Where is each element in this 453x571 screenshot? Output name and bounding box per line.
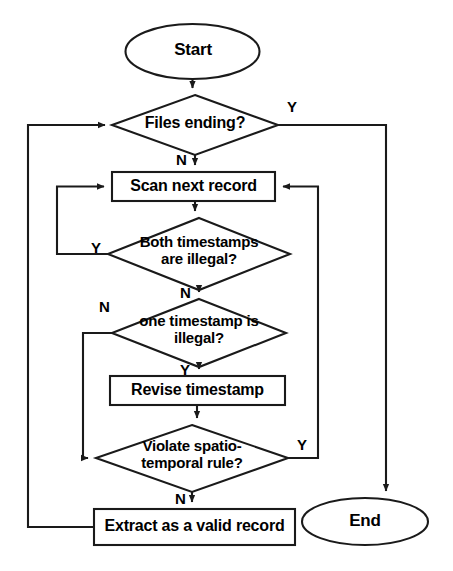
scan-next-record-node-shape xyxy=(112,172,275,201)
edge-label-files-ending-no: N xyxy=(176,152,187,167)
flowchart-svg xyxy=(0,0,453,571)
extract-valid-record-node-shape xyxy=(94,509,295,545)
violate-rule-node-shape xyxy=(96,425,288,492)
edge-violate-yes-to-scan xyxy=(283,187,318,459)
edge-label-one-illegal-yes: Y xyxy=(180,362,190,377)
one-timestamp-illegal-node-shape xyxy=(112,299,286,367)
files-ending-node-shape xyxy=(112,95,278,155)
edge-label-both-illegal-no: N xyxy=(180,285,191,300)
edge-label-both-illegal-yes: Y xyxy=(91,240,101,255)
edge-extract-to-files-ending xyxy=(28,125,105,527)
end-node-shape xyxy=(302,498,428,545)
edge-files-ending-yes-to-end xyxy=(278,125,386,491)
revise-timestamp-node-shape xyxy=(110,376,285,405)
flowchart-canvas: Start Files ending? Scan next record Bot… xyxy=(0,0,453,571)
edge-label-violate-yes: Y xyxy=(297,437,307,452)
edge-label-files-ending-yes: Y xyxy=(287,99,297,114)
edge-one-illegal-no-to-violate xyxy=(83,333,112,458)
start-node-shape xyxy=(126,24,260,79)
edge-label-violate-no: N xyxy=(175,491,186,506)
both-timestamps-illegal-node-shape xyxy=(108,218,290,290)
edge-label-one-illegal-no: N xyxy=(99,299,110,314)
